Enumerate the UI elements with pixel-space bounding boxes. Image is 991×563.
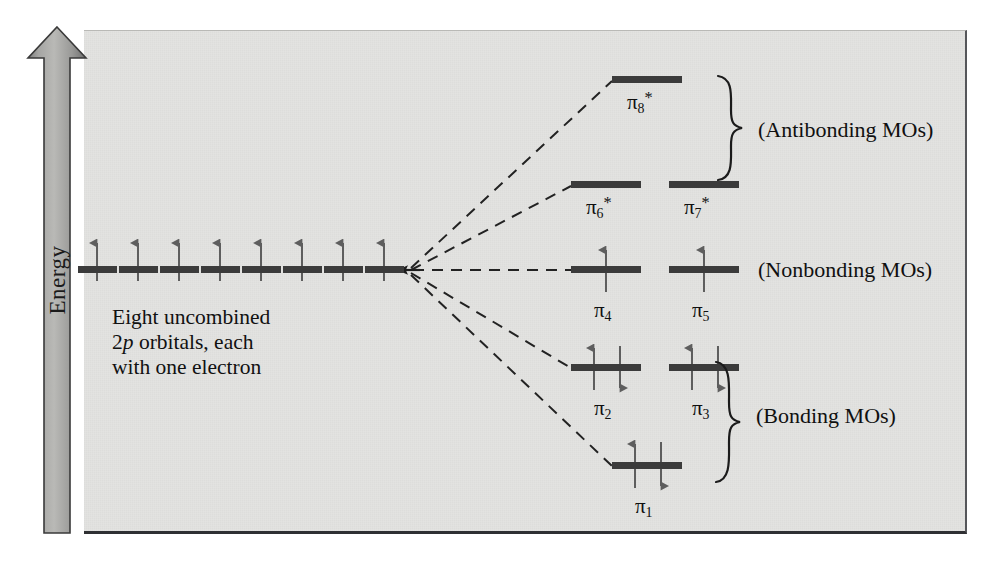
atomic-orbital — [201, 243, 240, 281]
mo-label-pi7: π7* — [684, 193, 710, 222]
caption-line-3: with one electron — [112, 355, 270, 380]
mo-label-pi6-symbol: π — [586, 195, 597, 219]
atomic-orbital — [78, 243, 117, 281]
mo-level-pi2 — [571, 346, 641, 390]
orbital-level-line — [571, 266, 641, 273]
mo-level-pi5 — [669, 250, 739, 292]
group-label-bonding: (Bonding MOs) — [756, 403, 896, 429]
correlation-line-pi6 — [411, 186, 571, 270]
mo-label-pi5-sub: 5 — [703, 309, 710, 324]
orbital-level-line — [242, 266, 281, 273]
mo-label-pi3-symbol: π — [692, 396, 703, 420]
mo-label-pi8: π8* — [627, 88, 653, 117]
mo-label-pi1: π1 — [635, 494, 653, 521]
orbital-level-line — [283, 266, 322, 273]
caption-line-1: Eight uncombined — [112, 305, 270, 330]
orbital-level-line — [669, 181, 739, 188]
orbital-level-line — [324, 266, 363, 273]
mo-level-pi1 — [612, 442, 682, 488]
mo-label-pi8-star: * — [645, 88, 653, 107]
correlation-lines — [411, 81, 612, 466]
orbital-level-line — [119, 266, 158, 273]
orbital-level-line — [571, 364, 641, 371]
mo-label-pi2: π2 — [594, 396, 612, 423]
mo-label-pi7-symbol: π — [684, 195, 695, 219]
mo-label-pi4: π4 — [594, 298, 612, 325]
mo-label-pi7-star: * — [702, 193, 710, 212]
orbital-level-line — [669, 266, 739, 273]
atomic-orbital — [119, 243, 158, 281]
mo-level-pi4 — [571, 250, 641, 292]
brace-bonding — [716, 362, 740, 482]
mo-label-pi8-symbol: π — [627, 90, 638, 114]
mo-label-pi3: π3 — [692, 396, 710, 423]
mo-label-pi6: π6* — [586, 193, 612, 222]
orbital-level-line — [365, 266, 404, 273]
correlation-line-pi8 — [411, 81, 612, 268]
atomic-orbital — [283, 243, 322, 281]
mo-label-pi2-symbol: π — [594, 396, 605, 420]
mo-level-pi7 — [669, 181, 739, 188]
atomic-orbital — [324, 243, 363, 281]
atomic-orbital-group — [78, 243, 404, 281]
mo-label-pi6-sub: 6 — [597, 206, 604, 221]
mo-label-pi2-sub: 2 — [605, 407, 612, 422]
orbital-level-line — [78, 266, 117, 273]
mo-label-pi4-sub: 4 — [605, 309, 612, 324]
caption-2p-orbital-letter: p — [123, 330, 134, 354]
caption-2p-number: 2 — [112, 330, 123, 354]
mo-level-pi8 — [612, 76, 682, 83]
atomic-orbital — [242, 243, 281, 281]
mo-label-pi5-symbol: π — [692, 298, 703, 322]
orbital-level-line — [571, 181, 641, 188]
atomic-orbital — [365, 243, 404, 281]
orbital-level-line — [160, 266, 199, 273]
figure-canvas: Energy — [0, 0, 991, 563]
caption-line-2: 2p orbitals, each — [112, 330, 270, 355]
mo-label-pi1-symbol: π — [635, 494, 646, 518]
orbital-level-line — [612, 462, 682, 469]
mo-label-pi1-sub: 1 — [646, 505, 653, 520]
group-label-nonbonding: (Nonbonding MOs) — [758, 257, 932, 283]
mo-label-pi4-symbol: π — [594, 298, 605, 322]
atomic-orbital — [160, 243, 199, 281]
mo-label-pi5: π5 — [692, 298, 710, 325]
orbital-level-line — [201, 266, 240, 273]
correlation-line-pi2 — [411, 273, 571, 368]
group-label-antibonding: (Antibonding MOs) — [758, 117, 933, 143]
caption-line-2-rest: orbitals, each — [134, 330, 254, 354]
orbital-level-line — [612, 76, 682, 83]
mo-level-pi6 — [571, 181, 641, 188]
mo-label-pi3-sub: 3 — [703, 407, 710, 422]
orbital-level-line — [669, 364, 739, 371]
atomic-orbital-caption: Eight uncombined 2p orbitals, each with … — [112, 305, 270, 380]
mo-label-pi6-star: * — [604, 193, 612, 212]
mo-label-pi7-sub: 7 — [695, 206, 702, 221]
mo-label-pi8-sub: 8 — [638, 101, 645, 116]
brace-antibonding — [718, 76, 742, 180]
